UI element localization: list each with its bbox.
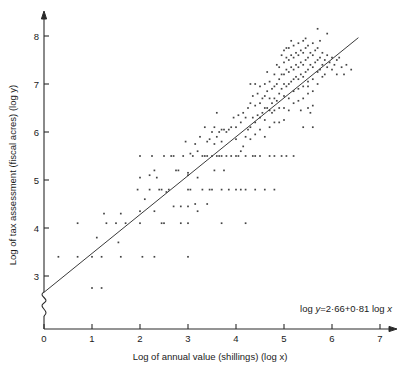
data-point xyxy=(242,112,244,114)
data-point xyxy=(266,90,268,92)
data-point xyxy=(266,71,268,73)
data-point xyxy=(216,136,218,138)
data-point xyxy=(310,64,312,66)
data-point xyxy=(204,126,206,128)
data-point xyxy=(103,213,105,215)
data-point xyxy=(290,54,292,56)
regression-equation-annotation: log y=2·66+0·81 log x xyxy=(300,303,393,314)
data-point xyxy=(254,83,256,85)
data-point xyxy=(190,153,192,155)
data-point xyxy=(264,119,266,121)
data-point xyxy=(293,155,295,157)
data-point xyxy=(238,155,240,157)
data-point xyxy=(336,59,338,61)
data-points-layer xyxy=(58,28,353,289)
data-point xyxy=(298,100,300,102)
data-point xyxy=(161,222,163,224)
data-point xyxy=(312,54,314,56)
data-point xyxy=(288,98,290,100)
data-point xyxy=(173,206,175,208)
data-point xyxy=(235,155,237,157)
data-point xyxy=(326,33,328,35)
data-point xyxy=(245,117,247,119)
data-point xyxy=(214,143,216,145)
y-axis-tick-label: 3 xyxy=(34,271,39,282)
data-point xyxy=(269,81,271,83)
data-point xyxy=(120,213,122,215)
data-point xyxy=(274,189,276,191)
data-point xyxy=(302,98,304,100)
x-axis-tick-label: 1 xyxy=(89,333,94,344)
data-point xyxy=(295,52,297,54)
x-axis-arrow-icon xyxy=(389,326,397,331)
data-point xyxy=(187,206,189,208)
data-point xyxy=(214,126,216,128)
data-point xyxy=(302,52,304,54)
data-point xyxy=(331,69,333,71)
data-point xyxy=(271,102,273,104)
data-point xyxy=(262,98,264,100)
x-axis-tick-label: 0 xyxy=(41,333,46,344)
data-point xyxy=(317,59,319,61)
data-point xyxy=(139,155,141,157)
data-point xyxy=(163,222,165,224)
data-point xyxy=(264,189,266,191)
data-point xyxy=(264,95,266,97)
data-point xyxy=(274,122,276,124)
y-axis-tick-label: 5 xyxy=(34,175,39,186)
data-point xyxy=(202,155,204,157)
data-point xyxy=(221,189,223,191)
data-point xyxy=(180,206,182,208)
data-point xyxy=(300,74,302,76)
data-point xyxy=(300,110,302,112)
data-point xyxy=(216,155,218,157)
data-point xyxy=(319,57,321,59)
data-point xyxy=(194,143,196,145)
data-point xyxy=(230,126,232,128)
data-point xyxy=(101,256,103,258)
data-point xyxy=(322,76,324,78)
data-point xyxy=(307,81,309,83)
data-point xyxy=(324,74,326,76)
data-point xyxy=(278,107,280,109)
data-point xyxy=(281,74,283,76)
axis-labels-layer: 01234567345678Log of annual value (shill… xyxy=(7,31,393,363)
data-point xyxy=(223,129,225,131)
data-point xyxy=(250,102,252,104)
data-point xyxy=(125,222,127,224)
data-point xyxy=(336,74,338,76)
data-point xyxy=(288,47,290,49)
data-point xyxy=(283,50,285,52)
data-point xyxy=(235,138,237,140)
data-point xyxy=(283,119,285,121)
data-point xyxy=(286,47,288,49)
axes-layer xyxy=(41,11,397,332)
data-point xyxy=(230,155,232,157)
data-point xyxy=(271,112,273,114)
data-point xyxy=(221,222,223,224)
data-point xyxy=(156,177,158,179)
data-point xyxy=(197,210,199,212)
regression-line-path xyxy=(44,38,358,293)
data-point xyxy=(120,256,122,258)
data-point xyxy=(298,78,300,80)
data-point xyxy=(257,93,259,95)
data-point xyxy=(228,189,230,191)
data-point xyxy=(286,86,288,88)
data-point xyxy=(288,59,290,61)
data-point xyxy=(240,122,242,124)
data-point xyxy=(290,40,292,42)
data-point xyxy=(322,64,324,66)
data-point xyxy=(298,66,300,68)
data-point xyxy=(278,78,280,80)
x-axis-title: Log of annual value (shillings) (log x) xyxy=(133,351,288,362)
y-axis-tick-label: 6 xyxy=(34,127,39,138)
data-point xyxy=(312,90,314,92)
x-axis-tick-label: 3 xyxy=(185,333,190,344)
data-point xyxy=(139,222,141,224)
data-point xyxy=(235,126,237,128)
data-point xyxy=(314,62,316,64)
data-point xyxy=(252,95,254,97)
data-point xyxy=(300,50,302,52)
data-point xyxy=(187,256,189,258)
